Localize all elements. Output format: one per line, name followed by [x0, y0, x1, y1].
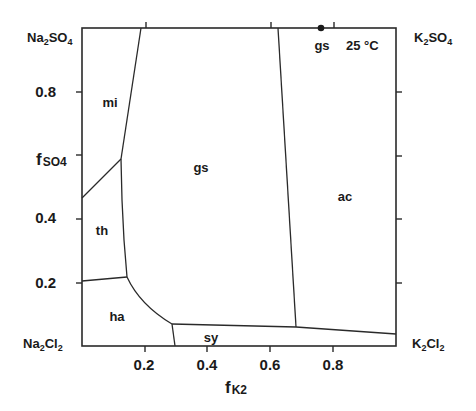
x-axis-title: fK2 — [225, 378, 247, 397]
corner-k2cl2: K2Cl2 — [412, 336, 444, 353]
plot-frame — [82, 28, 396, 346]
boundary-th-ha — [82, 277, 127, 281]
region-mi: mi — [102, 95, 117, 110]
y-tick-0.2: 0.2 — [35, 274, 56, 291]
corner-na2cl2: Na2Cl2 — [23, 336, 63, 353]
region-th: th — [96, 223, 108, 238]
boundary-mi-th — [82, 159, 121, 198]
region-ha: ha — [109, 309, 125, 324]
boundary-th-gs — [121, 159, 127, 277]
phase-diagram: 0.8 0.4 0.2 0.2 0.4 0.6 0.8 fSO4 fK2 Na2… — [0, 0, 476, 411]
region-ac: ac — [338, 189, 352, 204]
bottom-ticks — [145, 346, 333, 352]
x-tick-0.2: 0.2 — [134, 356, 155, 373]
gs-point-label: gs — [314, 38, 329, 53]
boundary-ac-sy — [296, 327, 396, 334]
top-ticks — [146, 22, 334, 28]
boundary-ha-gs — [127, 277, 172, 324]
corner-k2so4: K2SO4 — [414, 30, 452, 47]
right-ticks — [396, 92, 402, 283]
x-tick-0.6: 0.6 — [260, 356, 281, 373]
phase-boundaries — [82, 28, 396, 346]
y-tick-0.4: 0.4 — [35, 209, 57, 226]
temperature-label: 25 °C — [346, 38, 379, 53]
region-sy: sy — [204, 330, 219, 345]
boundary-gs-sy — [172, 324, 296, 327]
x-tick-0.8: 0.8 — [323, 356, 344, 373]
left-ticks — [76, 92, 82, 283]
gs-point-marker — [318, 25, 325, 32]
boundary-mi-gs — [121, 28, 141, 159]
y-tick-0.8: 0.8 — [35, 83, 56, 100]
x-tick-0.4: 0.4 — [197, 356, 219, 373]
y-axis-title: fSO4 — [36, 150, 67, 169]
corner-na2so4: Na2SO4 — [27, 30, 72, 47]
region-gs: gs — [193, 160, 208, 175]
boundary-gs-ac — [278, 28, 296, 327]
boundary-ha-sy — [172, 324, 175, 346]
